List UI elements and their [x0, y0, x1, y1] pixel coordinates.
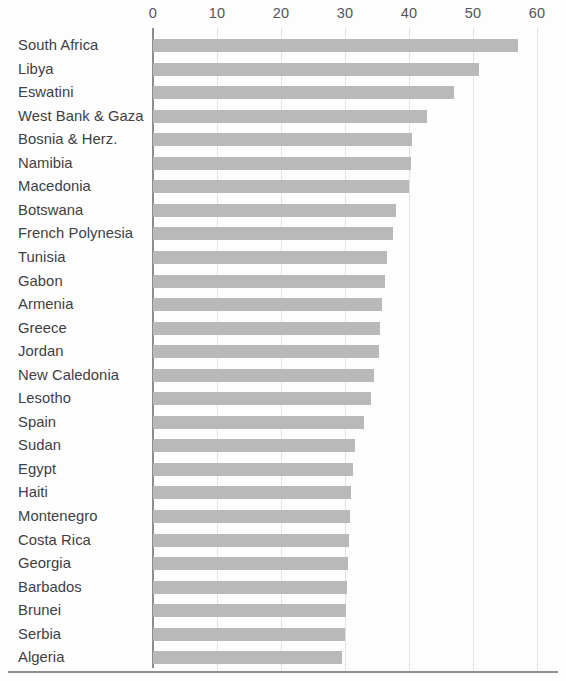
bar-row: Greece [0, 317, 566, 341]
bar-row: Serbia [0, 623, 566, 647]
category-label: Algeria [18, 646, 64, 670]
bar-row: Haiti [0, 481, 566, 505]
category-label: Gabon [18, 270, 63, 294]
plot-area: South AfricaLibyaEswatiniWest Bank & Gaz… [0, 28, 566, 672]
category-label: Jordan [18, 340, 64, 364]
bar-row: Namibia [0, 152, 566, 176]
bar [153, 604, 346, 617]
x-tick-label-30: 30 [337, 4, 354, 22]
bar-row: Georgia [0, 552, 566, 576]
x-tick-label-40: 40 [401, 4, 418, 22]
bar [153, 369, 374, 382]
bar [153, 227, 393, 240]
bar-row: West Bank & Gaza [0, 105, 566, 129]
bar [153, 157, 411, 170]
bar-row: Montenegro [0, 505, 566, 529]
bar-row: Spain [0, 411, 566, 435]
bar [153, 180, 409, 193]
bar-row: Bosnia & Herz. [0, 128, 566, 152]
bar-row: Costa Rica [0, 529, 566, 553]
bar [153, 298, 382, 311]
bar [153, 534, 349, 547]
bar-row: Libya [0, 58, 566, 82]
bar [153, 581, 347, 594]
bar-row: Macedonia [0, 175, 566, 199]
category-label: Eswatini [18, 81, 74, 105]
chart-baseline-rule [8, 671, 558, 673]
bar [153, 486, 351, 499]
category-label: Brunei [18, 599, 61, 623]
category-label: Namibia [18, 152, 73, 176]
bar [153, 204, 396, 217]
category-label: Serbia [18, 623, 61, 647]
category-label: Tunisia [18, 246, 66, 270]
bar [153, 39, 518, 52]
bar-row: New Caledonia [0, 364, 566, 388]
bar-row: Sudan [0, 434, 566, 458]
bar [153, 651, 342, 664]
bar [153, 86, 454, 99]
category-label: South Africa [18, 34, 98, 58]
x-tick-label-0: 0 [149, 4, 157, 22]
category-label: Lesotho [18, 387, 71, 411]
bar [153, 439, 355, 452]
bar [153, 416, 364, 429]
category-label: Macedonia [18, 175, 91, 199]
bar-row: Jordan [0, 340, 566, 364]
bar [153, 110, 427, 123]
bar-row: Barbados [0, 576, 566, 600]
category-label: Armenia [18, 293, 73, 317]
bar-rows: South AfricaLibyaEswatiniWest Bank & Gaz… [0, 28, 566, 672]
bar-row: Botswana [0, 199, 566, 223]
x-axis-tick-label-strip: 0102030405060 [0, 0, 566, 28]
bar-row: South Africa [0, 34, 566, 58]
category-label: Montenegro [18, 505, 97, 529]
bar [153, 463, 353, 476]
x-tick-label-10: 10 [209, 4, 226, 22]
bar-row: Egypt [0, 458, 566, 482]
category-label: Botswana [18, 199, 83, 223]
bar [153, 251, 387, 264]
category-label: Bosnia & Herz. [18, 128, 117, 152]
category-label: Georgia [18, 552, 71, 576]
bar-row: Gabon [0, 270, 566, 294]
category-label: West Bank & Gaza [18, 105, 144, 129]
bar [153, 392, 371, 405]
category-label: Egypt [18, 458, 56, 482]
bar-row: French Polynesia [0, 222, 566, 246]
bar [153, 275, 385, 288]
category-label: Barbados [18, 576, 82, 600]
bar [153, 510, 350, 523]
bar-row: Armenia [0, 293, 566, 317]
category-label: Libya [18, 58, 54, 82]
x-tick-label-20: 20 [273, 4, 290, 22]
bar-row: Tunisia [0, 246, 566, 270]
bar-chart: 0102030405060 South AfricaLibyaEswatiniW… [0, 0, 566, 681]
x-tick-label-60: 60 [529, 4, 546, 22]
x-tick-label-50: 50 [465, 4, 482, 22]
category-label: Haiti [18, 481, 48, 505]
bar-row: Lesotho [0, 387, 566, 411]
category-label: New Caledonia [18, 364, 119, 388]
category-label: Sudan [18, 434, 61, 458]
category-label: Costa Rica [18, 529, 91, 553]
bar-row: Brunei [0, 599, 566, 623]
bar [153, 557, 348, 570]
category-label: French Polynesia [18, 222, 133, 246]
bar [153, 63, 479, 76]
category-label: Spain [18, 411, 56, 435]
bar [153, 628, 345, 641]
bar-row: Eswatini [0, 81, 566, 105]
bar [153, 322, 380, 335]
bar-row: Algeria [0, 646, 566, 670]
bar [153, 345, 379, 358]
category-label: Greece [18, 317, 67, 341]
bar [153, 133, 412, 146]
